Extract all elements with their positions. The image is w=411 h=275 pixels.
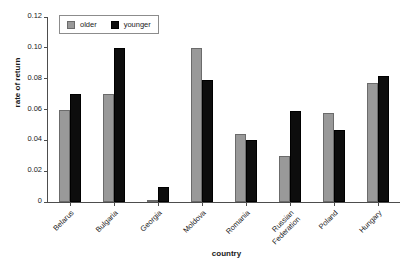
y-tick-mark: [44, 140, 48, 141]
bar-younger-hungary: [378, 76, 389, 202]
bar-older-poland: [323, 113, 334, 202]
y-tick-label: 0.12: [27, 11, 42, 20]
y-axis-title: rate of return: [13, 28, 22, 138]
y-tick-mark: [44, 47, 48, 48]
y-tick-label: 0: [38, 196, 42, 205]
legend-swatch-younger: [111, 21, 119, 29]
x-tick-mark: [158, 202, 159, 206]
y-tick-label: 0.04: [27, 134, 42, 143]
bar-younger-belarus: [70, 94, 81, 202]
bar-older-bulgaria: [103, 94, 114, 202]
y-tick-mark: [44, 202, 48, 203]
x-axis-title-text: country: [170, 249, 241, 258]
bar-younger-romania: [246, 140, 257, 202]
bar-older-russian-federation: [279, 156, 290, 202]
y-tick-label: 0.06: [27, 104, 42, 113]
y-tick-label: 0.02: [27, 165, 42, 174]
y-tick-mark: [44, 109, 48, 110]
x-tick-mark: [246, 202, 247, 206]
bar-older-georgia: [147, 200, 158, 202]
bar-older-belarus: [59, 110, 70, 203]
legend-item-younger: younger: [111, 20, 151, 29]
legend-label: younger: [124, 20, 151, 29]
x-axis-title: country: [0, 249, 411, 258]
x-tick-mark: [290, 202, 291, 206]
y-tick-mark: [44, 78, 48, 79]
y-tick-label: 0.08: [27, 73, 42, 82]
chart-legend: olderyounger: [59, 15, 159, 34]
legend-label: older: [80, 20, 97, 29]
bars-container: [48, 17, 400, 202]
x-tick-mark: [70, 202, 71, 206]
bar-older-hungary: [367, 83, 378, 202]
bar-younger-bulgaria: [114, 48, 125, 202]
x-tick-mark: [378, 202, 379, 206]
bar-younger-georgia: [158, 187, 169, 202]
legend-item-older: older: [67, 20, 97, 29]
bar-older-romania: [235, 134, 246, 202]
x-tick-mark: [114, 202, 115, 206]
y-tick-mark: [44, 17, 48, 18]
bar-younger-russian-federation: [290, 111, 301, 202]
x-tick-mark: [202, 202, 203, 206]
legend-swatch-older: [67, 21, 75, 29]
x-tick-mark: [334, 202, 335, 206]
bar-younger-poland: [334, 130, 345, 202]
y-tick-mark: [44, 171, 48, 172]
bar-younger-moldova: [202, 80, 213, 202]
y-tick-label: 0.10: [27, 42, 42, 51]
bar-older-moldova: [191, 48, 202, 202]
plot-area: 00.020.040.060.080.100.12BelarusBulgaria…: [47, 17, 400, 203]
bar-chart: rate of return 00.020.040.060.080.100.12…: [0, 0, 411, 275]
